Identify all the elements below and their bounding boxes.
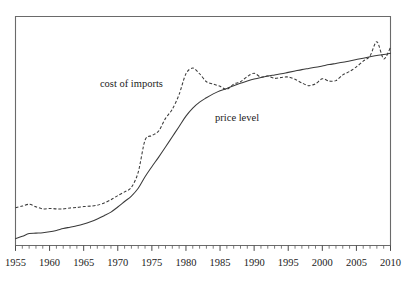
chart-figure: 1955196019651970197519801985199019952000…: [0, 0, 411, 283]
x-axis-tick-label: 1960: [39, 257, 60, 268]
series-price-level: [16, 53, 391, 238]
x-axis-tick-label: 1985: [210, 257, 231, 268]
x-axis-tick-label: 2000: [312, 257, 333, 268]
x-axis-tick-label: 1995: [278, 257, 299, 268]
x-axis-tick-label: 2010: [380, 257, 401, 268]
axis-frame: [16, 17, 391, 246]
x-axis-tick-label: 2005: [346, 257, 367, 268]
x-axis-tick-label: 1965: [73, 257, 94, 268]
x-axis-tick-label: 1970: [107, 257, 128, 268]
x-axis-tick-label: 1980: [175, 257, 196, 268]
x-axis-tick-label: 1990: [244, 257, 265, 268]
x-axis-tick-label: 1955: [5, 257, 26, 268]
line-chart: 1955196019651970197519801985199019952000…: [0, 0, 411, 283]
series-annotation-label: cost of imports: [100, 78, 163, 89]
plot-frame: [16, 17, 391, 246]
x-axis-tick-labels: 1955196019651970197519801985199019952000…: [5, 257, 401, 268]
data-series-group: [16, 42, 391, 239]
series-annotation-label: price level: [215, 112, 259, 123]
x-axis-tick-label: 1975: [141, 257, 162, 268]
x-axis-major-ticks: [16, 246, 391, 251]
series-cost-of-imports: [16, 42, 391, 209]
